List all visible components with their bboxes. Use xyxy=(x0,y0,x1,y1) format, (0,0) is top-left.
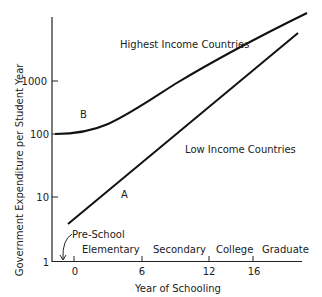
x-label-0: 0 xyxy=(72,266,78,277)
x-label-16: 16 xyxy=(248,266,261,277)
line-a-marker: A xyxy=(121,189,128,200)
y-label-1: 1 xyxy=(43,257,49,268)
low-income-label: Low Income Countries xyxy=(185,144,296,155)
highest-income-label: Highest Income Countries xyxy=(120,39,249,50)
highest-income-curve xyxy=(55,13,307,134)
chart: 1000 100 10 1 0 6 12 16 Elementary Secon… xyxy=(0,0,322,297)
low-income-line xyxy=(68,33,298,224)
y-label-100: 100 xyxy=(30,129,49,140)
preschool-label: Pre-School xyxy=(72,229,125,240)
stage-secondary: Secondary xyxy=(153,244,206,255)
curve-b-marker: B xyxy=(80,109,87,120)
preschool-arrow xyxy=(63,234,72,259)
stage-elementary: Elementary xyxy=(82,244,140,255)
y-label-1000: 1000 xyxy=(22,76,47,87)
x-label-6: 6 xyxy=(139,266,145,277)
y-label-10: 10 xyxy=(36,192,49,203)
x-axis-title: Year of Schooling xyxy=(134,283,221,294)
x-label-12: 12 xyxy=(203,266,216,277)
stage-graduate: Graduate xyxy=(262,244,309,255)
stage-college: College xyxy=(216,244,253,255)
y-axis-title: Government Expenditure per Student Year xyxy=(14,63,25,277)
